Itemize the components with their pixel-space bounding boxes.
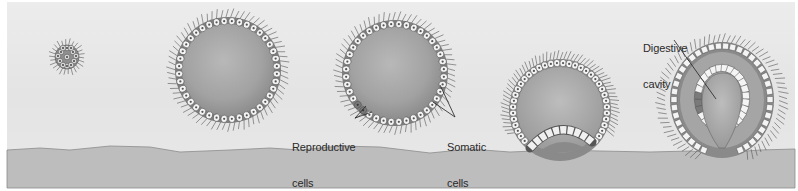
digestive-label-line2: cavity	[643, 78, 687, 90]
reproductive-label-line1: Reproductive	[292, 141, 356, 153]
digestive-cavity-label: Digestive cavity	[643, 18, 687, 114]
reproductive-label-line2: cells	[292, 177, 356, 189]
substrate-ground	[7, 146, 795, 188]
somatic-label-line1: Somatic	[447, 141, 486, 153]
reproductive-cells-label: Reproductive cells	[292, 117, 356, 191]
digestive-label-line1: Digestive	[643, 42, 687, 54]
somatic-label-line2: cells	[447, 177, 486, 189]
somatic-cells-label: Somatic cells	[447, 117, 486, 191]
colony-development-diagram: Reproductive cells Somatic cells Digesti…	[0, 0, 798, 191]
